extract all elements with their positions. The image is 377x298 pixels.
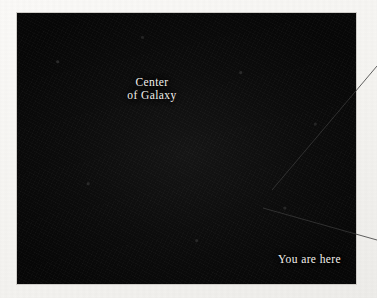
plate-vignette [17,13,356,284]
center-of-galaxy-label-line1: Center [115,76,189,89]
galaxy-photograph: Center of Galaxy You are here [17,13,356,284]
figure-page: Center of Galaxy You are here [0,0,377,298]
center-of-galaxy-label-line2: of Galaxy [115,89,189,102]
center-of-galaxy-label: Center of Galaxy [115,76,189,102]
you-are-here-label: You are here [278,253,341,266]
spiral-galaxy-illustration [17,13,356,284]
